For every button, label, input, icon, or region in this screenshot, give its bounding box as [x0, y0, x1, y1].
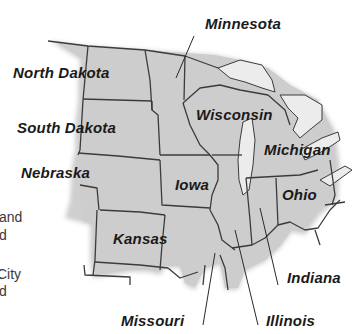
label-ohio: Ohio — [282, 186, 317, 203]
label-kansas: Kansas — [113, 230, 168, 247]
margin-text-line-1: and — [0, 209, 22, 225]
margin-text-line-3: City — [0, 266, 21, 282]
label-wisconsin: Wisconsin — [196, 106, 273, 123]
label-illinois: Illinois — [266, 312, 315, 329]
label-iowa: Iowa — [175, 176, 209, 193]
label-south-dakota: South Dakota — [17, 119, 116, 136]
label-missouri: Missouri — [121, 312, 184, 329]
label-nebraska: Nebraska — [21, 164, 90, 181]
label-minnesota: Minnesota — [205, 15, 281, 32]
margin-text-line-4: d — [0, 283, 7, 299]
label-indiana: Indiana — [287, 269, 341, 286]
label-michigan: Michigan — [264, 141, 331, 158]
margin-text-line-2: d — [0, 227, 7, 243]
label-north-dakota: North Dakota — [13, 64, 110, 81]
